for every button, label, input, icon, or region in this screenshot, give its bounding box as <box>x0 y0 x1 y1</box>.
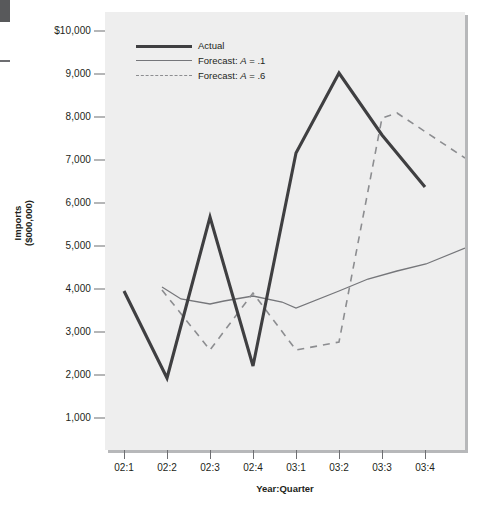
legend-swatch-forecast-a1 <box>136 60 192 61</box>
x-tick-label: 02:3 <box>200 462 219 473</box>
x-tick-label: 02:1 <box>114 462 133 473</box>
x-tick-mark <box>296 450 297 459</box>
x-tick-mark <box>210 450 211 459</box>
x-tick-label: 03:2 <box>329 462 348 473</box>
x-tick-label: 03:3 <box>372 462 391 473</box>
y-axis-title: Imports ($000,000) <box>12 200 34 246</box>
x-tick-mark <box>124 450 125 459</box>
legend-item-forecast-a6: Forecast: A = .6 <box>136 68 296 83</box>
legend-label-forecast-a1: Forecast: A = .1 <box>198 53 265 68</box>
x-tick-label: 03:4 <box>415 462 434 473</box>
y-axis-title-line2: ($000,000) <box>23 200 34 246</box>
x-tick-mark <box>339 450 340 459</box>
chart-figure: $10,000 9,000 8,000 7,000 6,000 5,000 4,… <box>0 0 484 509</box>
y-tick-label: 2,000 <box>65 370 91 380</box>
y-tick-label: $10,000 <box>54 26 91 36</box>
legend-label-actual: Actual <box>198 38 224 53</box>
y-tick-mark <box>94 203 105 204</box>
x-tick-label: 02:4 <box>243 462 262 473</box>
y-tick-label: 3,000 <box>65 327 91 337</box>
y-tick-label: 6,000 <box>65 198 91 208</box>
y-tick-mark <box>94 332 105 333</box>
y-tick-mark <box>94 160 105 161</box>
y-tick-label: 5,000 <box>65 241 91 251</box>
x-tick-label: 02:2 <box>157 462 176 473</box>
y-tick-mark <box>94 246 105 247</box>
x-axis-title: Year:Quarter <box>105 483 465 494</box>
series-line-actual <box>124 73 425 378</box>
y-tick-mark <box>94 74 105 75</box>
y-axis: $10,000 9,000 8,000 7,000 6,000 5,000 4,… <box>0 0 105 509</box>
x-tick-mark <box>382 450 383 459</box>
y-axis-title-line1: Imports <box>12 200 23 246</box>
legend-label-forecast-a6: Forecast: A = .6 <box>198 68 265 83</box>
y-tick-mark <box>94 418 105 419</box>
legend-item-forecast-a1: Forecast: A = .1 <box>136 53 296 68</box>
y-tick-label: 4,000 <box>65 284 91 294</box>
y-tick-label: 1,000 <box>65 413 91 423</box>
plot-area: Actual Forecast: A = .1 Forecast: A = .6 <box>105 12 465 450</box>
x-tick-label: 03:1 <box>286 462 305 473</box>
legend-item-actual: Actual <box>136 38 296 53</box>
legend-swatch-actual <box>136 45 192 48</box>
y-tick-label: 9,000 <box>65 69 91 79</box>
y-tick-label: 7,000 <box>65 155 91 165</box>
chart-legend: Actual Forecast: A = .1 Forecast: A = .6 <box>136 38 296 83</box>
y-tick-mark <box>94 375 105 376</box>
y-tick-label: 8,000 <box>65 112 91 122</box>
series-line-forecast-a1 <box>162 248 465 308</box>
x-tick-mark <box>167 450 168 459</box>
legend-swatch-forecast-a6 <box>136 75 192 76</box>
y-tick-mark <box>94 289 105 290</box>
x-tick-mark <box>425 450 426 459</box>
x-axis: 02:1 02:2 02:3 02:4 03:1 03:2 03:3 03:4 … <box>0 450 484 509</box>
x-tick-mark <box>253 450 254 459</box>
y-tick-mark <box>94 31 105 32</box>
y-tick-mark <box>94 117 105 118</box>
